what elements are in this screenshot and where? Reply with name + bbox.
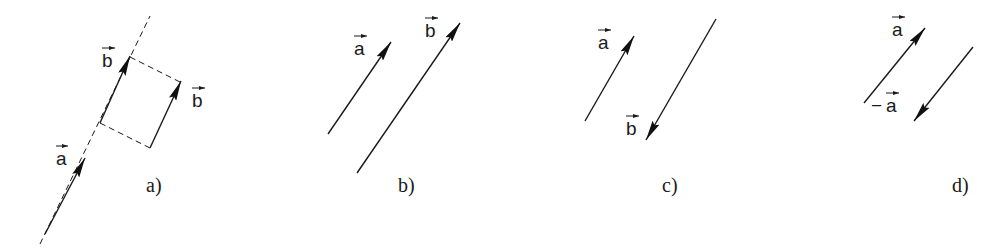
- panel-b: a b b): [328, 20, 460, 197]
- label-b-2: b: [192, 90, 203, 111]
- panel-caption-a: a): [146, 174, 162, 197]
- dashed-rect-bottom: [100, 123, 150, 148]
- vector-label-b: b: [192, 90, 203, 111]
- vector-label-b: b: [102, 50, 113, 71]
- panel-caption-b: b): [398, 174, 415, 197]
- panel-d: a − a d): [864, 19, 973, 197]
- vector-a-arrow: [45, 158, 85, 234]
- vector-b-arrow: [357, 23, 460, 173]
- vector-label-b: b: [626, 118, 637, 139]
- vector-label-a: a: [56, 148, 67, 169]
- vector-b-arrow-shifted: [150, 81, 181, 148]
- vector-label-b: b: [425, 20, 436, 41]
- vector-b-arrow: [646, 19, 716, 140]
- vector-label-minus-sign: −: [871, 95, 882, 116]
- vector-label-a: a: [598, 32, 609, 53]
- panel-a: a b b a): [40, 16, 203, 244]
- vector-label-a: a: [892, 19, 903, 40]
- label-b-1: b: [102, 50, 113, 71]
- vector-diagram: a b b a) a b b) a b c) a − a d): [0, 0, 1008, 249]
- dashed-rect-top: [130, 57, 180, 82]
- label-a: a: [56, 146, 68, 169]
- panel-caption-d: d): [952, 174, 969, 197]
- vector-label-neg-a: a: [886, 95, 897, 116]
- panel-caption-c: c): [662, 174, 678, 197]
- vector-overbars: [102, 17, 905, 116]
- vector-a-arrow: [585, 36, 634, 121]
- vector-neg-a-arrow: [914, 47, 973, 121]
- dashed-axis-line: [40, 16, 150, 244]
- panel-c: a b c): [585, 19, 716, 197]
- vector-label-a: a: [354, 38, 365, 59]
